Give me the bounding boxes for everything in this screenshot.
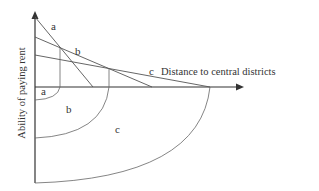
curve-label-a: a	[51, 20, 56, 32]
zone-arc-a	[35, 87, 60, 100]
curve-label-c: c	[149, 65, 154, 77]
x-axis-label: Distance to central districts	[161, 66, 276, 77]
y-axis-arrow-icon	[32, 11, 39, 19]
zone-label-b: b	[66, 103, 72, 115]
bid-rent-diagram: a b c a b c Distance to central district…	[0, 0, 319, 191]
y-axis-label: Ability of paying rent	[16, 47, 27, 138]
x-axis-arrow-icon	[236, 84, 244, 91]
bid-rent-line-b	[35, 37, 152, 87]
zone-label-a: a	[41, 85, 46, 97]
zone-arc-b	[35, 87, 109, 138]
bid-rent-line-a	[35, 17, 93, 87]
curve-label-b: b	[75, 45, 81, 57]
zone-label-c: c	[115, 123, 120, 135]
